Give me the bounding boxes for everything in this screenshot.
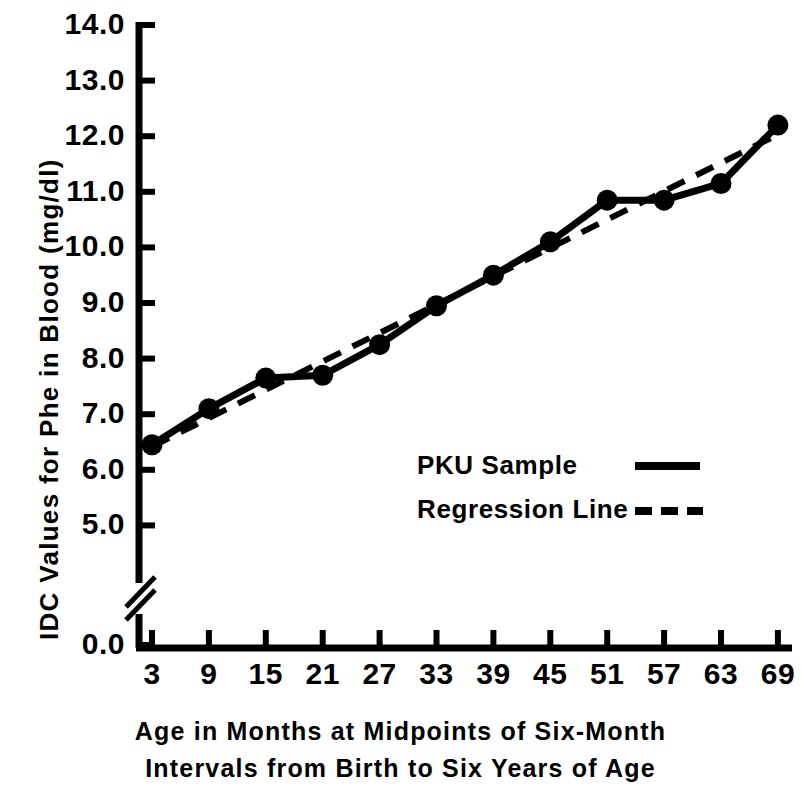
- x-axis-tick-label: 33: [407, 659, 467, 689]
- data-point-marker: [540, 231, 561, 252]
- y-axis-tick-label: 12.0: [5, 120, 125, 150]
- x-axis-tick-label: 63: [691, 659, 751, 689]
- data-point-marker: [255, 368, 276, 389]
- x-axis-tick-label: 15: [236, 659, 296, 689]
- data-point-marker: [483, 265, 504, 286]
- data-point-marker: [654, 190, 675, 211]
- x-axis-tick-label: 9: [179, 659, 239, 689]
- legend-label-pku-sample: PKU Sample: [417, 452, 578, 478]
- x-axis-tick-label: 3: [122, 659, 182, 689]
- y-axis-tick-label: 14.0: [5, 9, 125, 39]
- x-axis-title-line-1: Age in Months at Midpoints of Six-Month: [0, 715, 801, 748]
- data-point-marker: [597, 190, 618, 211]
- x-axis-tick-label: 57: [634, 659, 694, 689]
- y-axis-title: IDC Values for Phe in Blood (mg/dl): [34, 158, 65, 640]
- y-axis-tick-label: 9.0: [5, 287, 125, 317]
- y-axis-tick-label: 10.0: [5, 231, 125, 261]
- axis-break-marks: [126, 577, 155, 620]
- y-axis-tick-label: 6.0: [5, 454, 125, 484]
- axis-lines: [136, 22, 792, 648]
- data-point-marker: [767, 115, 788, 136]
- y-axis-tick-label: 8.0: [5, 343, 125, 373]
- y-axis-tick-label: 5.0: [5, 509, 125, 539]
- x-axis-title-line-2: Intervals from Birth to Six Years of Age: [0, 752, 801, 785]
- data-point-marker: [142, 434, 163, 455]
- data-point-marker: [198, 398, 219, 419]
- x-axis-tick-label: 45: [520, 659, 580, 689]
- data-point-marker: [426, 295, 447, 316]
- x-axis-tick-label: 39: [463, 659, 523, 689]
- data-point-marker: [312, 365, 333, 386]
- y-axis-tick-label: 7.0: [5, 398, 125, 428]
- y-axis-tick-label: 11.0: [5, 176, 125, 206]
- x-axis-tick-label: 51: [577, 659, 637, 689]
- x-axis-tick-label: 69: [748, 659, 801, 689]
- y-axis-tick-label: 13.0: [5, 65, 125, 95]
- legend-label-regression-line: Regression Line: [417, 496, 628, 522]
- legend-swatches: [635, 466, 703, 511]
- data-point-marker: [369, 334, 390, 355]
- y-axis-tick-label: 0.0: [5, 629, 125, 659]
- x-axis-tick-label: 27: [350, 659, 410, 689]
- data-point-marker: [711, 173, 732, 194]
- chart-figure: 14.013.012.011.010.09.08.07.06.05.00.0 3…: [0, 0, 801, 791]
- x-axis-tick-label: 21: [293, 659, 353, 689]
